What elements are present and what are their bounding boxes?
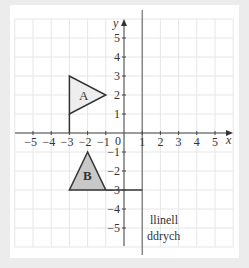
y-tick-label: −4 [107, 202, 120, 216]
y-tick-label: 1 [114, 107, 120, 121]
x-tick-label: 1 [139, 135, 145, 149]
y-tick-label: 5 [114, 31, 120, 45]
y-tick-label: −2 [107, 164, 120, 178]
x-axis-label: x [225, 133, 232, 147]
triangle-a-label: A [79, 88, 89, 103]
y-tick-label: −3 [107, 183, 120, 197]
x-tick-label: 3 [176, 135, 182, 149]
mirror-line-label-2: ddrych [147, 229, 180, 243]
y-tick-label: −1 [107, 145, 120, 159]
y-tick-label: 2 [114, 88, 120, 102]
y-axis-label: y [112, 16, 119, 30]
x-tick-label: −5 [24, 135, 37, 149]
x-tick-label: 4 [194, 135, 200, 149]
x-tick-label: 5 [212, 135, 218, 149]
triangle-b-label: B [83, 168, 92, 183]
x-tick-label: −2 [79, 135, 92, 149]
mirror-line-label-1: llinell [150, 213, 179, 227]
y-tick-label: −5 [107, 221, 120, 235]
y-axis-arrow-icon [121, 19, 127, 26]
x-tick-label: −3 [61, 135, 74, 149]
x-tick-label: −4 [42, 135, 55, 149]
coordinate-grid: A B x y 0 −5−4−3−2−11234554321−1−2−3−4−5… [0, 0, 249, 268]
y-tick-label: 3 [114, 69, 120, 83]
y-tick-label: 4 [114, 50, 120, 64]
x-tick-label: 2 [157, 135, 163, 149]
